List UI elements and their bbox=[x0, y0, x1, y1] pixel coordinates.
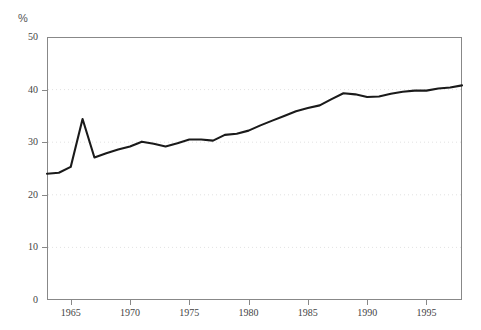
y-tick-mark bbox=[42, 247, 47, 248]
y-tick-mark bbox=[42, 142, 47, 143]
x-tick-mark bbox=[426, 300, 427, 305]
x-tick-mark bbox=[189, 300, 190, 305]
y-tick-mark bbox=[42, 195, 47, 196]
x-tick-label: 1970 bbox=[110, 307, 150, 318]
y-tick-label: 30 bbox=[10, 136, 38, 147]
x-tick-label: 1990 bbox=[347, 307, 387, 318]
x-tick-mark bbox=[249, 300, 250, 305]
y-tick-label: 40 bbox=[10, 84, 38, 95]
x-tick-label: 1985 bbox=[288, 307, 328, 318]
gridlines bbox=[48, 90, 461, 248]
x-tick-mark bbox=[130, 300, 131, 305]
y-tick-label: 50 bbox=[10, 31, 38, 42]
line-chart: % 01020304050 19651970197519801985199019… bbox=[0, 0, 481, 330]
series-layer bbox=[0, 0, 481, 330]
x-tick-label: 1975 bbox=[169, 307, 209, 318]
x-tick-mark bbox=[71, 300, 72, 305]
y-tick-mark bbox=[42, 90, 47, 91]
series-line bbox=[47, 85, 462, 173]
x-tick-label: 1965 bbox=[51, 307, 91, 318]
data-series-paths bbox=[47, 85, 462, 173]
y-tick-label: 10 bbox=[10, 241, 38, 252]
x-tick-label: 1995 bbox=[406, 307, 446, 318]
y-tick-label: 20 bbox=[10, 189, 38, 200]
y-tick-label: 0 bbox=[10, 294, 38, 305]
x-tick-mark bbox=[308, 300, 309, 305]
x-tick-label: 1980 bbox=[229, 307, 269, 318]
x-tick-mark bbox=[367, 300, 368, 305]
